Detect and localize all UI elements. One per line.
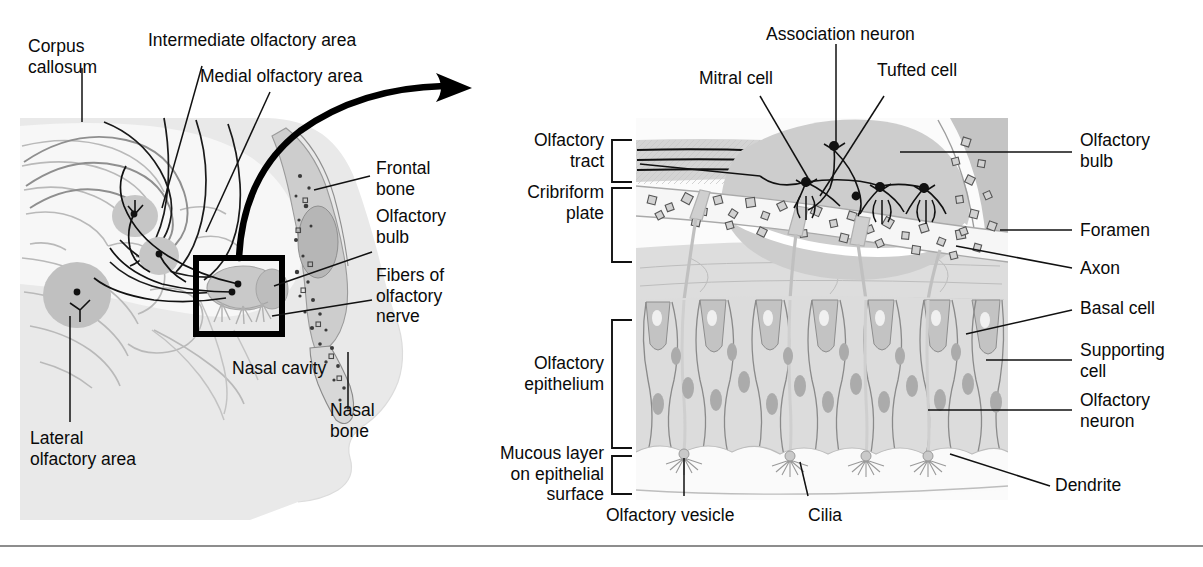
label-olfactory-bulb-right: Olfactory bulb bbox=[1080, 130, 1150, 171]
label-corpus-callosum: Corpus callosum bbox=[28, 36, 97, 77]
measure-brackets bbox=[612, 140, 632, 494]
tract-forks bbox=[70, 200, 143, 322]
brain-gyri bbox=[22, 140, 244, 404]
nasal-and-frontal-bone bbox=[152, 128, 354, 424]
label-intermediate-olfactory-area: Intermediate olfactory area bbox=[148, 30, 356, 51]
label-olfactory-epithelium: Olfactory epithelium bbox=[452, 353, 604, 394]
bracket-mucous-layer bbox=[612, 456, 632, 494]
cribriform-squares bbox=[647, 193, 982, 260]
label-lateral-olfactory-area: Lateral olfactory area bbox=[30, 428, 136, 469]
olfactory-vesicles bbox=[679, 449, 933, 461]
label-association-neuron: Association neuron bbox=[766, 24, 915, 45]
tract-fibers bbox=[637, 149, 880, 175]
label-mitral-cell: Mitral cell bbox=[699, 68, 773, 89]
bracket-olfactory-tract bbox=[612, 140, 632, 182]
label-fibers-of-olfactory-nerve: Fibers of olfactory nerve bbox=[376, 265, 444, 327]
label-olfactory-tract: Olfactory tract bbox=[452, 130, 604, 171]
axon-bundles bbox=[684, 218, 940, 300]
neuron-somas bbox=[801, 141, 929, 200]
label-cribriform-plate: Cribriform plate bbox=[452, 182, 604, 223]
cranial-cavity bbox=[20, 123, 302, 317]
right-leader-lines bbox=[684, 44, 1072, 496]
label-olfactory-vesicle: Olfactory vesicle bbox=[606, 505, 734, 526]
olfactory-epithelium bbox=[636, 296, 1008, 459]
left-leader-lines bbox=[70, 66, 372, 422]
bottom-rule bbox=[0, 545, 1203, 547]
glomeruli-tufts bbox=[796, 143, 935, 224]
label-axon: Axon bbox=[1080, 258, 1120, 279]
bracket-cribriform-plate bbox=[612, 188, 632, 262]
figure-canvas: Corpus callosum Intermediate olfactory a… bbox=[0, 0, 1203, 567]
label-nasal-bone: Nasal bone bbox=[330, 400, 375, 441]
basal-nuclei bbox=[652, 310, 990, 328]
mucous-layer bbox=[636, 446, 1008, 495]
label-dendrite: Dendrite bbox=[1055, 475, 1121, 496]
olfactory-tract-lines bbox=[94, 166, 238, 302]
label-cilia: Cilia bbox=[808, 505, 842, 526]
foramen-channels bbox=[690, 190, 870, 246]
bracket-olfactory-epithelium bbox=[612, 320, 632, 448]
corpus-callosum-arc bbox=[24, 137, 188, 258]
tract-nodes bbox=[74, 211, 242, 296]
callout-box bbox=[196, 258, 282, 334]
label-mucous-layer: Mucous layer on epithelial surface bbox=[420, 443, 604, 505]
frontal-lobe-outline bbox=[104, 118, 240, 293]
label-supporting-cell: Supporting cell bbox=[1080, 340, 1165, 381]
olfactory-areas bbox=[43, 195, 179, 328]
bulb-neurons bbox=[640, 146, 946, 216]
bulb-rim-squares bbox=[951, 137, 997, 236]
label-nasal-cavity: Nasal cavity bbox=[232, 358, 326, 379]
label-medial-olfactory-area: Medial olfactory area bbox=[200, 66, 362, 87]
label-tufted-cell: Tufted cell bbox=[877, 60, 957, 81]
cilia bbox=[666, 458, 946, 477]
olfactory-bulb-left bbox=[207, 266, 288, 324]
label-olfactory-neuron: Olfactory neuron bbox=[1080, 390, 1150, 431]
label-frontal-bone: Frontal bone bbox=[376, 158, 430, 199]
cell-nuclei bbox=[652, 343, 1002, 415]
label-foramen: Foramen bbox=[1080, 220, 1150, 241]
label-basal-cell: Basal cell bbox=[1080, 298, 1155, 319]
label-olfactory-bulb-left: Olfactory bulb bbox=[376, 206, 446, 247]
